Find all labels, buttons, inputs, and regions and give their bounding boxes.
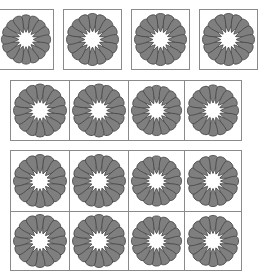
rosette-icon	[0, 10, 53, 69]
rosette-icon	[129, 212, 184, 270]
rosette-icon	[185, 151, 241, 211]
rosette-icon	[11, 81, 69, 140]
joined-grid-tile	[128, 150, 185, 212]
rosette-icon	[70, 151, 128, 211]
joined-row-tile	[184, 80, 242, 141]
rosette-icon	[132, 10, 189, 69]
joined-grid-tile	[184, 211, 242, 271]
joined-grid-tile	[10, 211, 70, 271]
joined-grid-tile	[69, 211, 129, 271]
separated-row-tile	[131, 9, 190, 70]
rosette-icon	[185, 81, 241, 140]
rosette-icon	[64, 10, 121, 69]
rosette-icon	[70, 81, 128, 140]
joined-grid-tile	[69, 150, 129, 212]
rosette-icon	[70, 212, 128, 270]
joined-grid-tile	[128, 211, 185, 271]
joined-row-tile	[10, 80, 70, 141]
separated-row-tile	[0, 9, 54, 70]
separated-row-tile	[199, 9, 258, 70]
rosette-icon	[11, 212, 69, 270]
rosette-icon	[200, 10, 257, 69]
rosette-icon	[11, 151, 69, 211]
joined-grid-tile	[184, 150, 242, 212]
rosette-icon	[129, 151, 184, 211]
joined-row-tile	[128, 80, 185, 141]
joined-row-tile	[69, 80, 129, 141]
rosette-icon	[185, 212, 241, 270]
rosette-icon	[129, 81, 184, 140]
separated-row-tile	[63, 9, 122, 70]
joined-grid-tile	[10, 150, 70, 212]
